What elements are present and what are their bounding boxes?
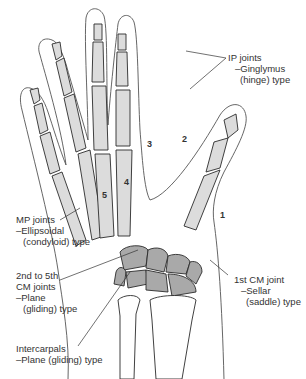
forearm-bones xyxy=(118,296,196,379)
ulna xyxy=(118,296,140,379)
label-cm-2-5: 2nd to 5th CM joints –Plane (gliding) ty… xyxy=(16,270,77,314)
finger-2 xyxy=(116,34,132,236)
number-4: 4 xyxy=(124,177,129,187)
number-3: 3 xyxy=(147,139,152,149)
number-1: 1 xyxy=(220,210,225,220)
number-2: 2 xyxy=(182,134,187,144)
label-1st-cm-joint: 1st CM joint –Sellar (saddle) type xyxy=(234,274,301,307)
finger-1-thumb xyxy=(184,114,238,230)
carpal-bones xyxy=(114,246,202,296)
label-ip-joints: IP joints –Ginglymus (hinge) type xyxy=(228,52,290,85)
label-intercarpals: Intercarpals –Plane (gliding) type xyxy=(16,343,103,365)
radius xyxy=(150,296,196,379)
label-mp-joints: MP joints –Ellipsoidal (condyloid) type xyxy=(16,214,90,247)
number-5: 5 xyxy=(102,190,107,200)
